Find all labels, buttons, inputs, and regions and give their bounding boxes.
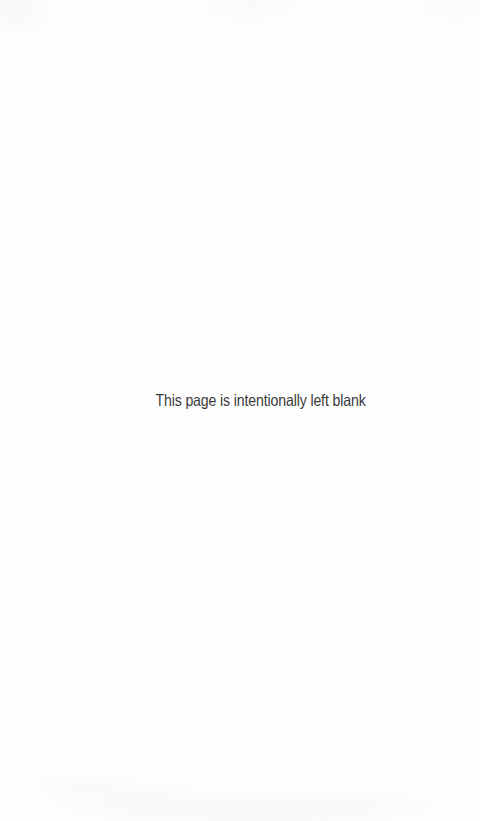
intentionally-blank-notice: This page is intentionally left blank (35, 390, 445, 410)
scan-noise-overlay (0, 0, 480, 821)
document-page: This page is intentionally left blank (0, 0, 480, 821)
